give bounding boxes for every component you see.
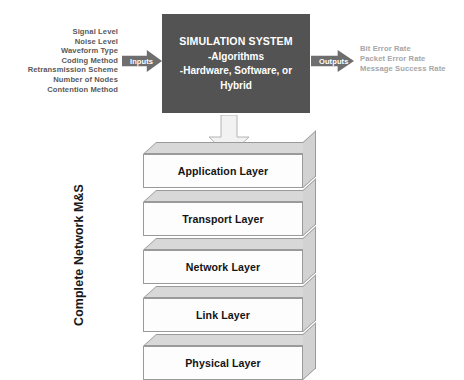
stack-label: Complete Network M&S: [72, 155, 86, 355]
outputs-arrow-label: Outputs: [311, 57, 348, 66]
simulation-line-hardware: -Hardware, Software, or: [180, 64, 292, 79]
output-item: Bit Error Rate: [360, 44, 464, 54]
simulation-title: SIMULATION SYSTEM: [179, 34, 292, 49]
layer-label: Application Layer: [143, 154, 303, 188]
simulation-line-hybrid: Hybrid: [220, 79, 252, 94]
layer-label: Physical Layer: [143, 346, 303, 380]
layer-top-face: [143, 238, 316, 250]
layer-side-face: [303, 322, 316, 380]
inputs-parameter-list: Signal Level Noise Level Waveform Type C…: [4, 27, 118, 94]
layer-top-face: [143, 142, 316, 154]
layer-top-face: [143, 334, 316, 346]
inputs-arrow: Inputs: [122, 49, 162, 73]
layer-network: Network Layer: [143, 250, 303, 284]
input-item: Contention Method: [4, 85, 118, 95]
input-item: Retransmission Scheme: [4, 65, 118, 75]
outputs-metric-list: Bit Error Rate Packet Error Rate Message…: [360, 44, 464, 75]
input-item: Waveform Type: [4, 46, 118, 56]
layer-label: Transport Layer: [143, 202, 303, 236]
simulation-line-algorithms: -Algorithms: [208, 50, 264, 65]
layer-transport: Transport Layer: [143, 202, 303, 236]
input-item: Noise Level: [4, 37, 118, 47]
inputs-arrow-label: Inputs: [122, 57, 153, 66]
layer-link: Link Layer: [143, 298, 303, 332]
layer-application: Application Layer: [143, 154, 303, 188]
output-item: Packet Error Rate: [360, 54, 464, 64]
input-item: Number of Nodes: [4, 75, 118, 85]
input-item: Coding Method: [4, 56, 118, 66]
layer-label: Network Layer: [143, 250, 303, 284]
layer-label: Link Layer: [143, 298, 303, 332]
layer-physical: Physical Layer: [143, 346, 303, 380]
simulation-system-box: SIMULATION SYSTEM -Algorithms -Hardware,…: [162, 14, 310, 113]
outputs-arrow: Outputs: [311, 49, 354, 73]
layer-top-face: [143, 190, 316, 202]
output-item: Message Success Rate: [360, 64, 464, 74]
layer-top-face: [143, 286, 316, 298]
input-item: Signal Level: [4, 27, 118, 37]
